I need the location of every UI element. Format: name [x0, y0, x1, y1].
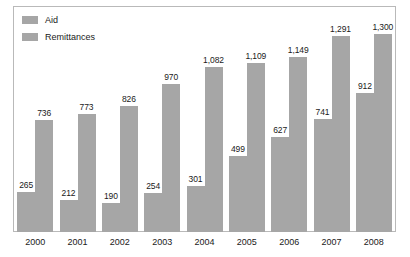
bar-remittances-2005[interactable]: 1,109 — [247, 63, 265, 232]
bar-remittances-2002[interactable]: 826 — [120, 106, 138, 232]
x-tick-2001: 2001 — [56, 236, 98, 248]
bar-group: 190826 — [102, 7, 138, 232]
bar-group: 9121,300 — [356, 7, 392, 232]
x-tick-2008: 2008 — [353, 236, 395, 248]
bar-value-label: 1,082 — [203, 55, 224, 65]
bar-remittances-2006[interactable]: 1,149 — [289, 57, 307, 232]
x-tick-2002: 2002 — [99, 236, 141, 248]
bar-group: 7411,291 — [314, 7, 350, 232]
bar-aid-2005[interactable]: 499 — [229, 156, 247, 232]
bar-value-label: 1,149 — [288, 45, 309, 55]
bar-value-label: 773 — [80, 102, 94, 112]
bar-remittances-2004[interactable]: 1,082 — [205, 67, 223, 232]
bar-aid-2006[interactable]: 627 — [271, 137, 289, 232]
legend-item-remittances: Remittances — [22, 30, 95, 44]
chart-screenshot: Aid Remittances 265736212773190826254970… — [0, 0, 410, 257]
bar-aid-2002[interactable]: 190 — [102, 203, 120, 232]
x-tick-2005: 2005 — [226, 236, 268, 248]
x-tick-2007: 2007 — [310, 236, 352, 248]
chart-legend: Aid Remittances — [22, 13, 95, 47]
bar-value-label: 190 — [104, 191, 118, 201]
bar-value-label: 499 — [231, 144, 245, 154]
bar-aid-2007[interactable]: 741 — [314, 119, 332, 232]
bar-group: 4991,109 — [229, 7, 265, 232]
bar-group: 254970 — [144, 7, 180, 232]
x-axis-tick-labels: 200020012002200320042005200620072008 — [14, 236, 395, 252]
bar-aid-2004[interactable]: 301 — [187, 186, 205, 232]
bar-value-label: 1,300 — [372, 22, 393, 32]
legend-item-aid: Aid — [22, 13, 95, 27]
bar-aid-2008[interactable]: 912 — [356, 93, 374, 232]
bar-remittances-2008[interactable]: 1,300 — [374, 34, 392, 232]
bar-value-label: 1,109 — [245, 51, 266, 61]
bar-value-label: 265 — [19, 180, 33, 190]
bar-value-label: 912 — [358, 81, 372, 91]
x-tick-2000: 2000 — [14, 236, 56, 248]
legend-label-remittances: Remittances — [45, 32, 95, 42]
x-tick-2003: 2003 — [141, 236, 183, 248]
bar-group: 6271,149 — [271, 7, 307, 232]
bar-remittances-2001[interactable]: 773 — [78, 114, 96, 232]
legend-swatch-icon-remittances — [22, 33, 38, 41]
bar-value-label: 254 — [146, 181, 160, 191]
bar-value-label: 1,291 — [330, 24, 351, 34]
bar-value-label: 627 — [273, 125, 287, 135]
bar-value-label: 970 — [164, 72, 178, 82]
bar-remittances-2000[interactable]: 736 — [35, 120, 53, 232]
legend-label-aid: Aid — [45, 15, 58, 25]
bar-value-label: 741 — [316, 107, 330, 117]
bar-value-label: 301 — [189, 174, 203, 184]
bar-group: 3011,082 — [187, 7, 223, 232]
bar-aid-2003[interactable]: 254 — [144, 193, 162, 232]
x-tick-2006: 2006 — [268, 236, 310, 248]
bar-value-label: 212 — [62, 188, 76, 198]
bar-remittances-2007[interactable]: 1,291 — [332, 36, 350, 232]
bar-remittances-2003[interactable]: 970 — [162, 84, 180, 232]
x-tick-2004: 2004 — [183, 236, 225, 248]
bar-value-label: 826 — [122, 94, 136, 104]
bar-aid-2001[interactable]: 212 — [60, 200, 78, 232]
bar-value-label: 736 — [37, 108, 51, 118]
bar-aid-2000[interactable]: 265 — [17, 192, 35, 232]
legend-swatch-icon-aid — [22, 16, 38, 24]
